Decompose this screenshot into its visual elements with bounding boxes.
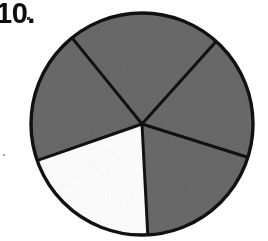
fraction-circle-figure xyxy=(0,0,268,241)
fraction-circle-svg xyxy=(0,0,268,241)
scan-speck xyxy=(27,17,30,20)
scan-speck xyxy=(3,154,5,156)
worksheet-page: 10. xyxy=(0,0,268,241)
